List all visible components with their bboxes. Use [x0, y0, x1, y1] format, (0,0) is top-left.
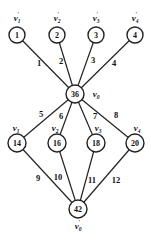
- edge-label: 11: [88, 175, 96, 185]
- node-n2: 2: [49, 27, 65, 43]
- node-n3: 3: [88, 27, 104, 43]
- node-value: 16: [53, 139, 61, 148]
- edge-label: 6: [59, 111, 63, 121]
- nodes: 1234361416182042: [8, 27, 144, 218]
- node-value: 14: [13, 139, 21, 148]
- node-m1: 14: [8, 134, 26, 152]
- edge-label: 8: [114, 110, 118, 120]
- edge-label: 5: [39, 109, 43, 119]
- edge-label: 10: [54, 172, 63, 182]
- node-value: 2: [55, 31, 59, 40]
- node-b0: 42: [69, 200, 87, 218]
- edge-9: [17, 143, 78, 209]
- vertex-label: v0: [93, 89, 100, 100]
- node-value: 1: [15, 31, 19, 40]
- node-value: 3: [94, 31, 98, 40]
- vertex-label: v0′: [75, 219, 82, 232]
- node-m2: 16: [48, 134, 66, 152]
- node-value: 4: [133, 31, 137, 40]
- node-n0: 36: [66, 85, 84, 103]
- vertex-label: v3: [95, 123, 102, 134]
- vertex-label: v4: [134, 123, 141, 134]
- node-m4: 20: [126, 134, 144, 152]
- node-value: 36: [71, 90, 79, 99]
- edge-label: 4: [112, 58, 117, 68]
- vertex-label: v2: [52, 123, 59, 134]
- node-n4: 4: [127, 27, 143, 43]
- graph-diagram: 123456789101112 1234361416182042 v1′v2′v…: [0, 0, 151, 240]
- node-value: 42: [74, 205, 82, 214]
- edge-label: 1: [37, 58, 41, 68]
- vertex-labels: v1′v2′v3′v4′v0v1v2v3v4v0′: [13, 11, 141, 232]
- edge-8: [75, 94, 135, 143]
- edge-label: 9: [36, 173, 40, 183]
- vertex-label: v3′: [93, 11, 100, 24]
- node-value: 18: [92, 139, 100, 148]
- node-m3: 18: [87, 134, 105, 152]
- edge-label: 12: [112, 175, 121, 185]
- vertex-label: v1: [13, 123, 20, 134]
- vertex-label: v2′: [54, 11, 61, 24]
- node-value: 20: [131, 139, 139, 148]
- edge-4: [75, 35, 135, 94]
- vertex-label: v1′: [14, 11, 21, 24]
- node-n1: 1: [9, 27, 25, 43]
- vertex-label: v4′: [132, 11, 139, 24]
- edge-label: 2: [59, 56, 63, 66]
- edge-label: 3: [91, 55, 95, 65]
